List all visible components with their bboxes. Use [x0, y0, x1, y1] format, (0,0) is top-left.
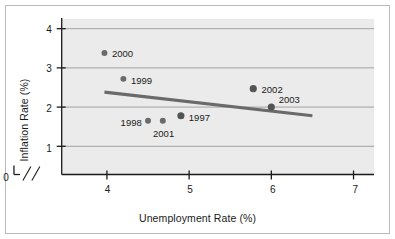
x-tick-label-5: 5: [187, 184, 193, 195]
y-tick-label-3: 3: [46, 63, 52, 74]
data-point-2001: [160, 118, 166, 124]
y-tick-label-0: 0: [3, 172, 9, 183]
data-point-2000: [101, 50, 107, 56]
x-tick-label-4: 4: [105, 184, 111, 195]
data-point-2003: [268, 104, 275, 111]
data-point-label-2001: 2001: [153, 128, 174, 139]
y-tick-label-1: 1: [46, 142, 52, 153]
x-tick-label-7: 7: [353, 184, 359, 195]
x-tick-label-6: 6: [270, 184, 276, 195]
data-point-label-2000: 2000: [112, 48, 133, 59]
data-point-1998: [145, 118, 151, 124]
x-axis-title: Unemployment Rate (%): [6, 212, 389, 224]
y-tick-label-4: 4: [46, 23, 52, 34]
data-point-label-1998: 1998: [121, 116, 142, 127]
data-point-2002: [250, 85, 257, 92]
chart-figure-frame: 012344567 1997199819992000200120022003 U…: [5, 5, 390, 234]
data-point-1997: [177, 112, 184, 119]
y-tick-label-2: 2: [46, 102, 52, 113]
y-axis-title: Inflation Rate (%): [18, 50, 30, 190]
data-point-label-1997: 1997: [189, 111, 210, 122]
data-point-label-1999: 1999: [131, 74, 152, 85]
data-point-label-2003: 2003: [279, 93, 300, 104]
plot-area-background: [62, 19, 374, 175]
data-point-1999: [120, 76, 126, 82]
